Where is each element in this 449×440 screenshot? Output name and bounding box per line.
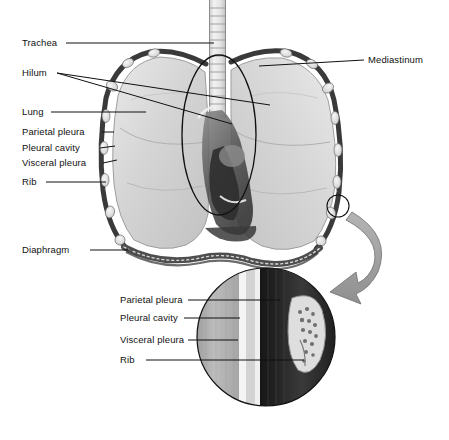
inset-label-rib: Rib — [120, 354, 135, 365]
inset-label-parietal-pleura: Parietal pleura — [120, 294, 183, 305]
inset-label-pleural-cavity: Pleural cavity — [120, 312, 178, 323]
diaphragm — [124, 247, 320, 269]
label-mediastinum: Mediastinum — [368, 54, 423, 65]
label-lung: Lung — [22, 106, 44, 117]
label-trachea: Trachea — [22, 37, 57, 48]
inset-magnified-circle — [197, 268, 335, 408]
label-pleural-cavity: Pleural cavity — [22, 142, 80, 153]
anatomy-figure: Trachea Hilum Lung Parietal pleura Pleur… — [0, 0, 449, 440]
label-hilum: Hilum — [22, 67, 47, 78]
label-rib: Rib — [22, 176, 37, 187]
trachea-structure — [209, 0, 226, 118]
label-parietal-pleura: Parietal pleura — [22, 126, 85, 137]
label-visceral-pleura: Visceral pleura — [22, 157, 86, 168]
magnify-arrow — [330, 212, 382, 304]
label-diaphragm: Diaphragm — [22, 244, 69, 255]
thorax-illustration-svg — [0, 0, 449, 440]
lung-left — [113, 57, 209, 249]
inset-label-visceral-pleura: Visceral pleura — [120, 334, 184, 345]
